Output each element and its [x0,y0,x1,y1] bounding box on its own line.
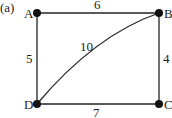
node-a-dot [33,9,41,17]
node-d-label: D [24,97,33,112]
graph-diagram: (a) A B C D 6 4 7 5 10 [0,0,172,118]
edge-a-b-weight: 6 [94,0,101,12]
node-b-label: B [164,6,172,21]
edge-a-d-weight: 5 [26,51,33,66]
figure-label: (a) [0,0,14,15]
edge-b-c-weight: 4 [163,51,170,66]
node-b-dot [155,9,163,17]
edge-d-b-weight: 10 [80,39,93,54]
node-d-dot [33,100,41,108]
node-c-dot [155,100,163,108]
node-c-label: C [164,97,172,112]
node-a-label: A [24,6,34,21]
edge-d-c-weight: 7 [93,105,100,118]
edge-d-b-curve [37,13,159,104]
